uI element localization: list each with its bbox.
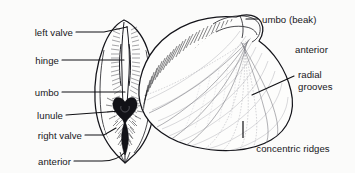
label-umbo-left: umbo	[35, 87, 59, 98]
lateral-view-drawing	[139, 15, 293, 152]
label-hinge: hinge	[35, 55, 59, 66]
label-concentric-ridges: concentric ridges	[256, 143, 330, 154]
label-right-valve: right valve	[38, 130, 82, 141]
figure-container: left valve hinge umbo lunule right valve…	[0, 0, 355, 173]
label-lunule: lunule	[37, 110, 63, 121]
label-anterior-left: anterior	[38, 156, 72, 167]
label-radial-grooves-line1: radial	[298, 69, 322, 80]
lateral-shell-outline	[139, 15, 293, 151]
label-anterior-right: anterior	[295, 44, 329, 55]
clam-anatomy-diagram: left valve hinge umbo lunule right valve…	[0, 0, 355, 173]
label-left-valve: left valve	[35, 27, 73, 38]
label-radial-grooves-line2: grooves	[298, 81, 333, 92]
label-umbo-beak: umbo (beak)	[262, 14, 316, 25]
